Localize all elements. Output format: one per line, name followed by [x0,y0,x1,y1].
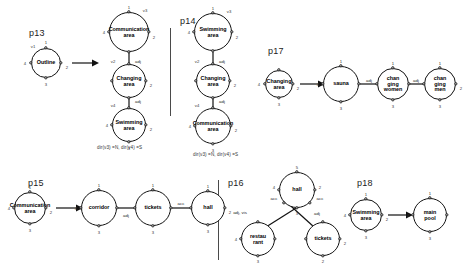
arrow-p18 [388,212,413,219]
port-number-4: 4 [106,123,108,128]
port-number-2: 2 [319,185,321,190]
edge-label-acc-p16-left: acc [271,196,278,201]
port-number-1: 1 [340,59,342,64]
vertex-tag-v4: v4 [111,103,115,108]
port-number-3: 3 [45,82,47,87]
port-number-3: 3 [207,229,209,234]
figure-canvas: p13 Outline 1 2 3 4 v1 Communication are… [0,0,464,267]
port-number-4: 4 [258,82,260,87]
node-disc [306,222,340,256]
node-disc [323,66,359,102]
edge-label-acc-p15: acc [178,201,185,206]
node-disc [14,192,46,224]
port-number-2: 2 [50,210,52,215]
port-number-2: 2 [297,86,299,91]
port-number-3: 3 [429,236,431,241]
port-number-4: 4 [407,213,409,218]
node-disc [135,190,171,226]
port-number-4: 4 [103,30,105,35]
node-disc [195,108,231,144]
edge-label-adj-p16: adj [314,211,320,216]
port-number-1: 1 [429,191,431,196]
edge-label-adj-p17-b: adj [413,78,419,83]
port-number-1: 1 [365,192,367,197]
port-number-1: 1 [212,6,214,11]
edge-label-adj-p17-a: adj [366,78,372,83]
node-disc [112,108,146,142]
port-number-4: 4 [24,61,26,66]
port-number-4: 4 [189,124,191,129]
node-disc [112,64,146,98]
port-number-4: 4 [344,213,346,218]
vertex-tag-v4: v4 [195,103,199,108]
node-disc [265,70,293,98]
edge-label-adj-p14-a: adj [219,59,225,64]
node-disc [196,64,230,98]
port-number-3: 3 [257,259,259,264]
node-disc [191,191,225,225]
caption-p13: dir(v3) =N, dir(v4) =S [97,145,142,150]
node-disc [350,199,382,231]
edge-label-adj-vis-p16: adj, vis [233,210,247,215]
port-number-1: 1 [45,40,47,45]
edge-label-adj-p15: adj [123,213,129,218]
port-number-3: 3 [439,104,441,109]
port-number-4: 4 [188,30,190,35]
port-number-2: 2 [344,241,346,246]
port-number-1: 1 [98,183,100,188]
port-number-2: 2 [153,35,155,40]
port-number-3: 3 [152,230,154,235]
port-number-2: 2 [235,128,237,133]
port-number-2: 2 [460,86,462,91]
caption-p14: dir(v3) =N, dir(v4) =S [193,152,238,157]
node-disc [377,68,409,100]
node-disc [424,68,456,100]
vertex-tag-v2: v2 [195,59,199,64]
port-number-1: 1 [207,184,209,189]
node-disc [194,13,232,51]
port-number-4: 4 [8,206,10,211]
port-number-3: 3 [340,106,342,111]
port-number-3: 3 [278,102,280,107]
vertex-tag-v2: v2 [111,59,115,64]
panel-label-p17: p17 [268,46,284,56]
panel-label-p18: p18 [357,178,373,188]
port-number-2: 2 [236,35,238,40]
port-number-3: 3 [392,104,394,109]
port-number-3: 2 [322,259,324,264]
port-number-4: 4 [273,185,275,190]
node-disc [31,48,61,78]
port-number-5: 5 [296,165,298,170]
edge-label-adj-p14-b: adj [219,99,225,104]
port-number-1: 1 [392,61,394,66]
port-number-2: 2 [229,210,231,215]
arrow-p13 [72,60,99,67]
panel-label-p13: p13 [29,28,45,38]
port-number-1: 1 [439,61,441,66]
vertex-tag-v3: v3 [227,9,231,14]
port-number-3: 3 [29,228,31,233]
port-number-2: 2 [386,217,388,222]
vertex-tag-v3: v3 [143,8,147,13]
node-disc [413,198,447,232]
panel-label-p14: p14 [180,16,196,26]
port-number-2: 2 [234,83,236,88]
port-number-4: 4 [317,82,319,87]
port-number-2: 2 [150,83,152,88]
port-number-1: 1 [29,185,31,190]
node-disc [241,222,275,256]
port-number-4: 4 [235,237,237,242]
edge-layer [0,0,464,267]
port-number-3: 3 [296,211,298,216]
port-number-4: 4 [75,206,77,211]
port-number-1: 1 [128,5,130,10]
port-number-2: 2 [150,127,152,132]
edge-label-adj-p13-a: adj [135,59,141,64]
panel-label-p16: p16 [228,178,244,188]
node-disc [109,12,149,52]
node-disc [81,190,117,226]
port-number-2: 2 [66,65,68,70]
port-number-3: 3 [365,235,367,240]
port-number-3: 3 [98,230,100,235]
edge-label-acc-p16-right: acc [317,196,324,201]
